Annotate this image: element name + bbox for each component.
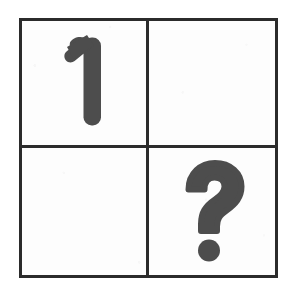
empty-cell-content <box>149 21 276 145</box>
matrix-cell-bottom-right[interactable] <box>149 148 276 275</box>
matrix-cell-top-left[interactable] <box>22 21 149 148</box>
digit-one-glyph <box>22 21 146 145</box>
matrix-cell-bottom-left[interactable] <box>22 148 149 275</box>
question-mark-glyph <box>149 148 276 275</box>
matrix-cell-top-right[interactable] <box>149 21 276 148</box>
empty-cell-content <box>22 148 146 275</box>
puzzle-grid <box>19 18 278 278</box>
